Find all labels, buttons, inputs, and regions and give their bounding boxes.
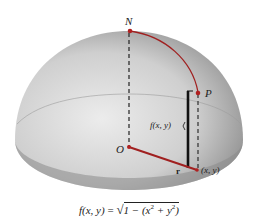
formula-radical: √ [116, 202, 123, 217]
label-n: N [125, 16, 132, 27]
formula-inside-prefix: 1 − (x [124, 204, 151, 216]
point-xy [195, 168, 199, 172]
hemisphere-diagram [0, 0, 258, 223]
formula-radicand: 1 − (x2 + y2) [124, 202, 179, 216]
formula-mid: + y [154, 204, 172, 216]
point-o [127, 145, 131, 149]
formula-lhs: f(x, y) [79, 204, 105, 216]
label-p: P [205, 88, 212, 99]
formula-suffix: ) [175, 204, 179, 216]
point-n [128, 29, 133, 34]
formula: f(x, y) = √1 − (x2 + y2) [0, 202, 258, 218]
label-base-point: (x, y) [201, 166, 219, 175]
label-height: f(x, y) [150, 121, 171, 130]
label-r: r [176, 167, 180, 176]
formula-eq: = [107, 204, 113, 216]
point-p [196, 91, 201, 96]
label-o: O [116, 144, 124, 155]
